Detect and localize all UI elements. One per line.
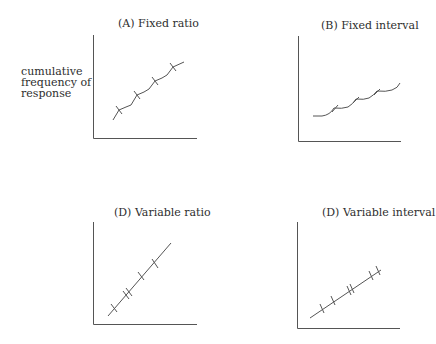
panel-d-axes — [298, 222, 401, 329]
panel-b-axes — [299, 36, 402, 142]
schedules-diagram — [0, 0, 436, 344]
panel-d-curve — [310, 266, 381, 318]
panel-a-curve — [113, 62, 184, 120]
panel-a-axes — [94, 35, 198, 139]
panel-b-curve — [313, 83, 400, 116]
panel-c-curve — [108, 243, 171, 316]
